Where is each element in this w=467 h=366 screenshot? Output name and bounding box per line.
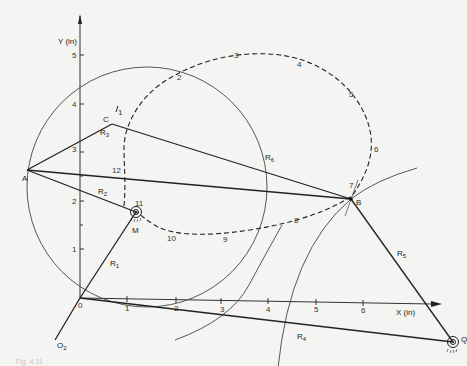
position-6: 6 — [374, 145, 379, 154]
position-1: 1 — [118, 108, 123, 117]
x-tick-4: 4 — [266, 305, 271, 314]
y-tick-1: 1 — [72, 245, 77, 254]
linkage-diagram: Y (in) X (in) 5 4 3 2 1 1 2 3 4 5 6 0 — [0, 0, 467, 366]
position-12: 12 — [112, 166, 121, 175]
x-axis — [80, 298, 432, 304]
link-r1 — [80, 212, 136, 298]
link-r6-label: R6 — [265, 153, 275, 163]
link-r5-label: R5 — [397, 249, 407, 259]
y-tick-3: 3 — [72, 145, 77, 154]
x-axis-label: X (in) — [396, 308, 415, 317]
origin-label: 0 — [78, 301, 83, 310]
link-r5 — [351, 199, 453, 342]
x-axis-arrow-icon — [431, 301, 442, 307]
position-9: 9 — [223, 235, 228, 244]
link-r1-label: R1 — [110, 259, 120, 269]
link-o2-extension — [55, 298, 80, 340]
x-tick-2: 2 — [174, 304, 179, 313]
point-q-label: Q — [461, 335, 467, 344]
link-a-b — [27, 170, 351, 199]
position-2: 2 — [177, 73, 182, 82]
links — [27, 124, 453, 342]
y-tick-4: 4 — [72, 100, 77, 109]
position-8: 8 — [294, 216, 299, 225]
position-11: 11 — [135, 199, 144, 208]
crank-circle — [27, 67, 267, 307]
figure-caption: Fig. 4.11 — [16, 358, 43, 366]
point-o2-label: O2 — [57, 341, 67, 351]
point-b-label: B — [356, 198, 361, 207]
link-r4-label: R4 — [297, 332, 307, 342]
x-tick-5: 5 — [314, 305, 319, 314]
pivot-m-icon — [131, 207, 142, 223]
link-r3-label: R3 — [100, 128, 110, 138]
x-tick-3: 3 — [220, 305, 225, 314]
position-10: 10 — [167, 234, 176, 243]
coupler-curve — [124, 54, 371, 235]
position-3: 3 — [234, 51, 239, 60]
axes — [78, 14, 442, 307]
y-axis-arrow-icon — [78, 14, 82, 24]
position-5: 5 — [349, 90, 354, 99]
position-7: 7 — [349, 181, 354, 190]
x-tick-6: 6 — [361, 306, 366, 315]
arc-lower-left — [175, 225, 282, 340]
pivot-q-icon — [447, 337, 459, 354]
joint-b — [349, 197, 353, 201]
y-axis-label: Y (in) — [58, 37, 77, 46]
link-r2-label: R2 — [98, 187, 108, 197]
point-c-label: C — [103, 115, 109, 124]
point-m-label: M — [132, 226, 139, 235]
point-a-label: A — [22, 174, 28, 183]
y-tick-2: 2 — [72, 197, 77, 206]
y-tick-5: 5 — [72, 51, 77, 60]
position-4: 4 — [297, 60, 302, 69]
